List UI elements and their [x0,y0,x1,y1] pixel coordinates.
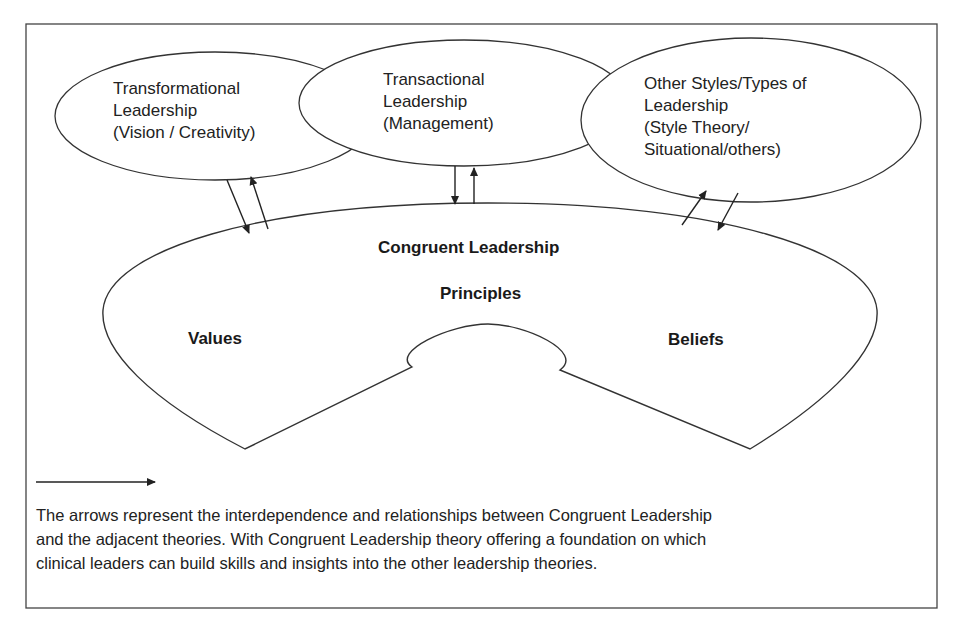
principles-label: Principles [440,284,521,304]
legend-caption: The arrows represent the interdependence… [36,503,936,575]
arrow-down-icon [227,180,249,233]
transformational-label: Transformational Leadership (Vision / Cr… [113,78,255,144]
congruent-leadership-title: Congruent Leadership [378,238,559,258]
transactional-label: Transactional Leadership (Management) [383,69,494,135]
beliefs-label: Beliefs [668,330,724,350]
arrow-up-icon [251,177,268,229]
other-styles-label: Other Styles/Types of Leadership (Style … [644,73,807,161]
values-label: Values [188,329,242,349]
